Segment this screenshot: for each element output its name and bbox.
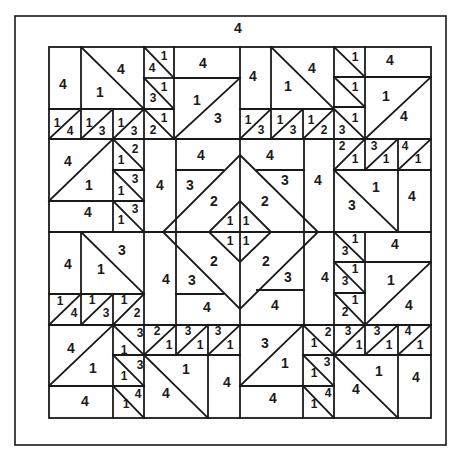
region-label: 1 [118,153,125,167]
region-label: 3 [281,172,289,188]
region-label: 1 [193,92,201,108]
region-label: 2 [321,123,328,137]
region-label: 4 [223,374,231,390]
region-label: 4 [84,204,92,220]
region-label: 1 [284,78,292,94]
region-label: 4 [64,256,72,272]
region-label: 3 [150,91,157,105]
region-label: 4 [321,269,329,285]
region-label: 1 [166,338,173,352]
region-label: 4 [197,147,205,163]
region-label: 1 [245,113,252,127]
region-label: 2 [262,253,270,269]
region-label: 2 [154,324,161,338]
region-label: 3 [137,358,144,372]
region-label: 1 [161,49,168,63]
region-label: 1 [352,232,359,246]
region-label: 3 [371,139,378,153]
region-label: 4 [203,299,211,315]
region-label: 3 [132,202,139,216]
region-label: 3 [324,355,331,369]
region-label: 4 [412,369,420,385]
region-label: 3 [214,110,222,126]
region-label: 2 [150,123,157,137]
region-label: 3 [342,274,349,288]
region-label: 3 [258,123,265,137]
region-label: 1 [386,338,393,352]
region-label: 1 [415,152,422,166]
region-label: 3 [374,324,381,338]
region-label: 1 [121,293,128,307]
region-label: 3 [261,335,269,351]
region-label: 1 [352,80,359,94]
region-label: 3 [132,172,139,186]
region-label: 1 [383,152,390,166]
region-label: 3 [284,269,292,285]
region-label: 3 [131,124,138,138]
region-label: 4 [249,68,257,84]
region-label: 4 [156,177,164,193]
region-label: 1 [352,152,359,166]
region-label: 3 [342,244,349,258]
region-label: 1 [161,80,168,94]
region-label: 4 [162,271,170,287]
region-label: 2 [325,325,332,339]
region-label: 4 [234,20,242,36]
region-label: 4 [269,390,277,406]
region-label: 2 [210,253,218,269]
region-label: 1 [311,397,318,411]
region-label: 3 [290,123,297,137]
region-label: 4 [405,324,412,338]
region-label: 1 [372,179,380,195]
region-label: 1 [121,343,128,357]
region-label: 3 [185,324,192,338]
region-label: 4 [386,52,394,68]
region-label: 1 [86,116,93,130]
region-label: 4 [64,153,72,169]
region-label: 4 [81,393,89,409]
region-label: 2 [134,306,141,320]
quilt-diagram: 4441141341341414114141313121313123141213… [0,0,465,455]
region-label: 1 [311,366,318,380]
region-label: 1 [352,50,359,64]
region-label: 1 [118,213,125,227]
region-label: 1 [123,397,130,411]
region-label: 1 [161,111,168,125]
region-label: 1 [382,88,390,104]
region-label: 1 [227,338,234,352]
region-label: 1 [417,338,424,352]
region-label: 1 [118,116,125,130]
region-label: 1 [387,272,395,288]
region-label: 1 [54,116,61,130]
region-label: 4 [352,381,360,397]
region-label: 3 [103,306,110,320]
region-label: 4 [135,387,142,401]
region-label: 4 [117,61,125,77]
region-label: 2 [210,193,218,209]
region-label: 1 [352,111,359,125]
region-label: 4 [400,108,408,124]
region-label: 3 [118,242,126,258]
region-label: 3 [215,324,222,338]
region-label: 4 [199,55,207,71]
region-label: 1 [277,113,284,127]
region-label: 2 [339,139,346,153]
region-label: 1 [352,262,359,276]
region-label: 1 [311,336,318,350]
region-label: 4 [67,340,75,356]
region-label: 4 [314,172,322,188]
region-label: 1 [308,113,315,127]
region-label: 2 [261,193,269,209]
region-label: 1 [182,361,190,377]
region-label: 2 [132,142,139,156]
region-label: 1 [121,369,128,383]
region-label: 4 [59,76,67,92]
region-label: 4 [405,297,413,313]
region-label: 3 [99,124,106,138]
region-label: 4 [67,124,74,138]
region-label: 1 [197,338,204,352]
region-label: 4 [391,236,399,252]
region-label: 4 [325,386,332,400]
region-label: 3 [188,272,196,288]
region-label: 2 [342,305,349,319]
